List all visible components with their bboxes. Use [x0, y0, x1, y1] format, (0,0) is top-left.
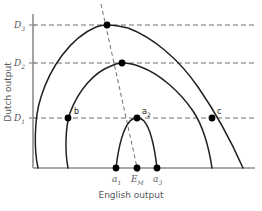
point-label-a2: a2	[142, 107, 151, 118]
chart-svg: D3 D2 D1 a1 EM a3 b a2 c English output …	[0, 0, 262, 211]
x-tick-label-a3: a3	[153, 174, 162, 186]
transformation-curves-chart: D3 D2 D1 a1 EM a3 b a2 c English output …	[0, 0, 262, 211]
x-axis-title: English output	[98, 190, 164, 200]
point-em	[134, 165, 141, 172]
y-tick-label-D1: D1	[13, 113, 25, 125]
point-d2-peak	[119, 60, 126, 67]
x-tick-label-EM: EM	[130, 174, 145, 186]
y-tick-label-D2: D2	[13, 58, 25, 70]
x-tick-label-a1: a1	[112, 174, 121, 186]
x-tick-labels: a1 EM a3	[112, 174, 162, 186]
data-points-group	[65, 22, 216, 172]
curves-group	[35, 25, 243, 168]
point-b	[65, 115, 72, 122]
point-d3-peak	[104, 22, 111, 29]
point-label-b: b	[74, 107, 79, 116]
point-a2	[134, 115, 141, 122]
curve-smallest	[116, 118, 157, 168]
y-tick-labels: D3 D2 D1	[13, 20, 25, 125]
y-axis-title: Dutch output	[3, 62, 13, 122]
y-tick-label-D3: D3	[13, 20, 25, 32]
point-labels: b a2 c	[74, 107, 221, 118]
level-lines-group	[33, 25, 255, 118]
point-a3	[154, 165, 161, 172]
point-a1	[113, 165, 120, 172]
point-c	[209, 115, 216, 122]
point-label-c: c	[217, 107, 221, 116]
